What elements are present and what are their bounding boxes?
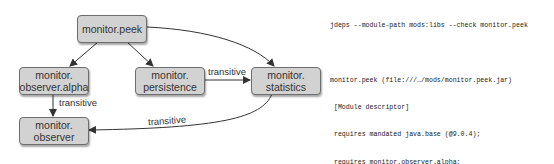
edge-peek-to-observer-alpha — [70, 42, 98, 66]
edge-label-persistence-statistics: transitive — [208, 66, 246, 77]
node-monitor-observer-alpha: monitor. observer.alpha — [19, 67, 89, 95]
node-label-line2: statistics — [266, 81, 306, 93]
console-line: [Module descriptor] — [330, 103, 554, 112]
node-label-line1: monitor. — [35, 69, 72, 81]
node-monitor-peek: monitor.peek — [77, 15, 147, 43]
node-monitor-observer: monitor. observer — [19, 117, 89, 145]
node-monitor-statistics: monitor. statistics — [251, 67, 321, 95]
node-monitor-persistence: monitor. persistence — [135, 67, 205, 95]
edge-peek-to-statistics — [147, 27, 274, 66]
node-label-line2: observer.alpha — [20, 81, 89, 93]
module-graph-diagram: monitor.peek monitor. observer.alpha mon… — [0, 0, 330, 164]
edge-label-alpha-observer: transitive — [59, 97, 97, 108]
console-line: requires monitor.observer.alpha; — [330, 158, 554, 164]
node-label: monitor.peek — [82, 23, 142, 35]
jdeps-console-output: jdeps --module-path mods:libs --check mo… — [330, 3, 554, 164]
node-label-line2: observer — [34, 131, 75, 143]
console-command: jdeps --module-path mods:libs --check mo… — [330, 21, 554, 30]
node-label-line1: monitor. — [267, 69, 304, 81]
node-label-line1: monitor. — [35, 119, 72, 131]
node-label-line1: monitor. — [151, 69, 188, 81]
node-label-line2: persistence — [143, 81, 197, 93]
edge-peek-to-persistence — [127, 42, 153, 66]
console-line: monitor.peek (file:///…/mods/monitor.pee… — [330, 76, 554, 85]
console-blank-line — [330, 48, 554, 57]
console-line: requires mandated java.base (@9.0.4); — [330, 130, 554, 139]
